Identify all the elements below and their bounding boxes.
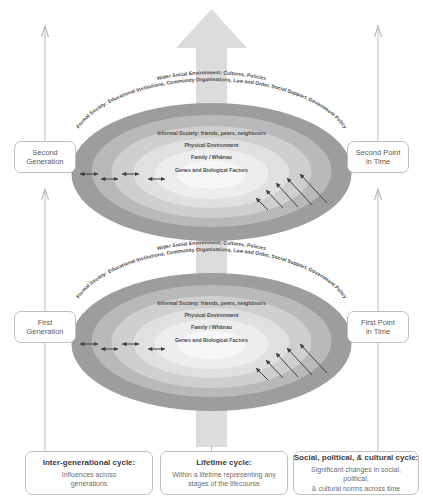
legend-inter-generational-desc2: generations [71, 479, 108, 488]
legend-lifetime-cycle: Lifetime cycle: Within a lifetime repres… [160, 451, 288, 495]
legend-lifetime-desc2: stages of the lifecourse [188, 479, 260, 488]
first-point-line2: in Time [366, 327, 390, 336]
social-political-cultural-connector [375, 25, 382, 455]
second-generation-line2: Generation [26, 157, 63, 166]
ring-label-genes-upper: Genes and Biological Factors [175, 167, 248, 173]
legend-social-desc2: & cultural norms across time [312, 484, 400, 493]
first-generation-label: First Generation [14, 311, 76, 343]
legend-inter-generational-cycle: Inter-generational cycle: Influences acr… [25, 451, 153, 495]
ring-label-informal-society-upper: Informal Society: friends, peers, neighb… [157, 130, 266, 136]
ring-label-family: Family / Whānau [191, 324, 232, 330]
second-generation-line1: Second [32, 148, 57, 157]
legend-lifetime-title: Lifetime cycle: [196, 458, 252, 468]
diagram-canvas: Wider Social Environment; Cultures, Poli… [0, 0, 423, 499]
legend-inter-generational-desc1: Influences across [62, 470, 116, 479]
legend-inter-generational-title: Inter-generational cycle: [43, 458, 135, 468]
legend-social-title: Social, political, & cultural cycle: [294, 453, 418, 463]
first-generation-line1: First [38, 318, 53, 327]
ring-label-genes: Genes and Biological Factors [175, 337, 248, 343]
ring-label-physical-environment-upper: Physical Environment [184, 142, 238, 148]
first-point-line1: First Point [361, 318, 395, 327]
second-point-line1: Second Point [356, 148, 401, 157]
ring-label-physical-environment: Physical Environment [184, 312, 238, 318]
ring-label-informal-society: Informal Society: friends, peers, neighb… [157, 300, 266, 306]
legend-social-political-cultural-cycle: Social, political, & cultural cycle: Sig… [293, 451, 419, 495]
legend-social-desc1: Significant changes in social, political… [298, 465, 414, 483]
ring-label-family-upper: Family / Whānau [191, 154, 232, 160]
second-point-line2: in Time [366, 157, 390, 166]
legend-lifetime-desc1: Within a lifetime representing any [172, 470, 276, 479]
second-generation-label: Second Generation [14, 141, 76, 173]
first-point-in-time-label: First Point in Time [347, 311, 409, 343]
lifecourse-diagram-svg: Wider Social Environment; Cultures, Poli… [0, 0, 423, 499]
second-point-in-time-label: Second Point in Time [347, 141, 409, 173]
first-generation-line2: Generation [26, 327, 63, 336]
inter-generational-connector [42, 25, 49, 455]
